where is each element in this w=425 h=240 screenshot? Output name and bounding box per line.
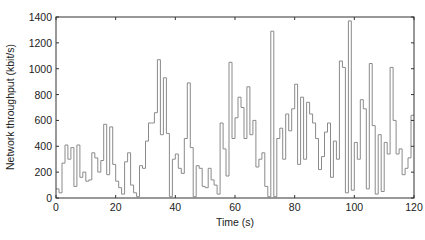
- x-tick-label: 80: [289, 201, 301, 213]
- x-tick-label: 40: [169, 201, 181, 213]
- y-tick-label: 200: [34, 166, 52, 178]
- x-tick-label: 60: [229, 201, 241, 213]
- x-tick-label: 100: [346, 201, 364, 213]
- y-tick-label: 1400: [29, 11, 53, 23]
- y-axis-label: Network throughput (kbit/s): [4, 44, 16, 170]
- y-tick-label: 600: [34, 114, 52, 126]
- y-tick-label: 1200: [29, 37, 53, 49]
- y-tick-label: 0: [46, 192, 52, 204]
- y-tick-label: 1000: [29, 63, 53, 75]
- x-tick-label: 120: [405, 201, 423, 213]
- y-tick-label: 800: [34, 89, 52, 101]
- x-tick-label: 0: [53, 201, 59, 213]
- throughput-chart: 020406080100120 020040060080010001200140…: [0, 0, 425, 240]
- x-tick-label: 20: [110, 201, 122, 213]
- x-axis-label: Time (s): [216, 216, 254, 228]
- y-tick-label: 400: [34, 140, 52, 152]
